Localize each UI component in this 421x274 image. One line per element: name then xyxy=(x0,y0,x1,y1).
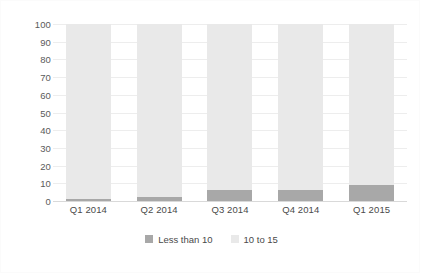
bar-segment[interactable] xyxy=(137,24,182,197)
y-axis-tick-label: 90 xyxy=(40,36,51,47)
plot-area xyxy=(53,24,407,201)
stacked-bar[interactable] xyxy=(278,24,323,201)
y-axis-tick-label: 100 xyxy=(35,19,51,30)
x-axis-tick-label: Q2 2014 xyxy=(125,204,194,220)
bar-series-group xyxy=(53,24,407,201)
legend-swatch-icon xyxy=(145,235,153,243)
bar-segment[interactable] xyxy=(207,190,252,201)
y-axis-tick-label: 70 xyxy=(40,72,51,83)
y-axis-tick-label: 50 xyxy=(40,107,51,118)
bar-segment[interactable] xyxy=(278,190,323,201)
y-axis-tick-label: 10 xyxy=(40,178,51,189)
legend-entry[interactable]: 10 to 15 xyxy=(231,234,278,245)
y-axis-tick-label: 0 xyxy=(46,196,51,207)
bar-segment[interactable] xyxy=(137,197,182,201)
bar-segment[interactable] xyxy=(66,199,111,201)
stacked-bar[interactable] xyxy=(137,24,182,201)
chart-container: 0102030405060708090100 Q1 2014Q2 2014Q3 … xyxy=(0,0,420,273)
stacked-bar[interactable] xyxy=(349,24,394,201)
legend-label: Less than 10 xyxy=(158,234,212,245)
axis-baseline xyxy=(53,201,407,202)
bar-segment[interactable] xyxy=(278,24,323,190)
x-axis: Q1 2014Q2 2014Q3 2014Q4 2014Q1 2015 xyxy=(53,204,407,220)
stacked-bar[interactable] xyxy=(66,24,111,201)
x-axis-tick-label: Q4 2014 xyxy=(266,204,335,220)
bar-segment[interactable] xyxy=(207,24,252,190)
bar-segment[interactable] xyxy=(66,24,111,199)
legend-label: 10 to 15 xyxy=(244,234,278,245)
bar-column[interactable] xyxy=(125,24,194,201)
legend-entry[interactable]: Less than 10 xyxy=(145,234,212,245)
bar-segment[interactable] xyxy=(349,185,394,201)
x-axis-tick-label: Q3 2014 xyxy=(195,204,264,220)
y-axis-tick-label: 80 xyxy=(40,54,51,65)
bar-segment[interactable] xyxy=(349,24,394,185)
bar-column[interactable] xyxy=(54,24,123,201)
chart-legend: Less than 1010 to 15 xyxy=(1,231,421,247)
y-axis-tick-label: 60 xyxy=(40,89,51,100)
x-axis-tick-label: Q1 2015 xyxy=(337,204,406,220)
x-axis-tick-label: Q1 2014 xyxy=(54,204,123,220)
legend-swatch-icon xyxy=(231,235,239,243)
bar-column[interactable] xyxy=(266,24,335,201)
bar-column[interactable] xyxy=(337,24,406,201)
stacked-bar[interactable] xyxy=(207,24,252,201)
y-axis-tick-label: 20 xyxy=(40,160,51,171)
y-axis: 0102030405060708090100 xyxy=(19,24,51,201)
y-axis-tick-label: 40 xyxy=(40,125,51,136)
bar-column[interactable] xyxy=(195,24,264,201)
y-axis-tick-label: 30 xyxy=(40,142,51,153)
